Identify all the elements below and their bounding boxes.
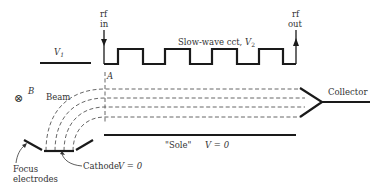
rf-out-label-2: out	[288, 19, 303, 29]
rf-out-label-1: rf	[292, 9, 300, 19]
b-field-label: B	[27, 86, 34, 96]
rf-in-label-1: rf	[100, 9, 108, 19]
rf-in-label-2: in	[100, 19, 109, 29]
slow-wave-circuit	[104, 49, 296, 64]
focus-electrode-left	[24, 140, 42, 150]
b-field-into-page-icon: ⊗	[14, 92, 23, 105]
beam-label: Beam	[46, 92, 70, 102]
slow-wave-label: Slow-wave cct, V2	[178, 37, 255, 48]
cathode-label: Cathode	[83, 161, 119, 171]
v1-label: V1	[54, 47, 64, 58]
rf-in-arrow-icon	[101, 39, 107, 46]
cfa-diagram: V1 rf in rf out Slow-wave cct, V2 A ⊗ B …	[0, 0, 383, 189]
rf-out-arrow-icon	[293, 38, 299, 46]
focus-pointer	[16, 145, 25, 163]
sole-label: "Sole"	[165, 140, 192, 150]
collector-label: Collector	[328, 87, 368, 97]
cathode-pointer	[62, 154, 82, 166]
collector	[300, 88, 322, 117]
focus-label-2: electrodes	[13, 174, 58, 184]
focus-label-1: Focus	[13, 164, 38, 174]
focus-electrode-right	[76, 140, 93, 150]
sole-voltage: V = 0	[205, 140, 230, 150]
point-a-label: A	[106, 71, 113, 81]
cathode-voltage: V = 0	[118, 161, 143, 171]
